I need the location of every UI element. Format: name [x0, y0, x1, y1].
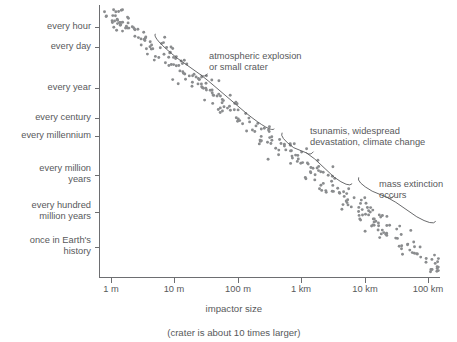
data-point	[120, 9, 123, 12]
data-point	[316, 167, 319, 170]
data-point	[320, 189, 323, 192]
data-point	[425, 261, 428, 264]
data-point	[369, 211, 372, 214]
data-point	[304, 176, 307, 179]
data-point	[245, 130, 248, 133]
data-point	[121, 30, 124, 33]
data-point	[342, 190, 345, 193]
data-point	[154, 55, 157, 58]
data-point	[385, 224, 388, 227]
data-point	[289, 162, 292, 165]
data-point	[309, 170, 312, 173]
annotation-tsunamis-devastation: tsunamis, widespread devastation, climat…	[310, 126, 425, 148]
data-point	[429, 270, 432, 273]
data-point	[400, 244, 403, 247]
data-point	[366, 206, 369, 209]
data-point	[268, 125, 271, 128]
data-point	[191, 81, 194, 84]
data-point	[241, 122, 244, 125]
data-point	[419, 246, 422, 249]
x-axis-title-sub: (crater is about 10 times larger)	[167, 327, 300, 338]
data-point	[377, 229, 380, 232]
y-tick-label-7: once in Earth's history	[0, 235, 91, 256]
data-point	[377, 221, 380, 224]
data-point	[105, 15, 108, 18]
data-point	[136, 28, 139, 31]
data-point	[202, 87, 205, 90]
data-point	[411, 251, 414, 254]
data-point	[164, 61, 167, 64]
data-point	[284, 148, 287, 151]
data-point	[149, 40, 152, 43]
data-point	[178, 69, 181, 72]
data-point	[289, 149, 292, 152]
data-point	[415, 252, 418, 255]
data-point	[406, 243, 409, 246]
data-point	[269, 142, 272, 145]
data-point	[363, 196, 366, 199]
data-point	[360, 199, 363, 202]
data-point	[437, 266, 440, 269]
data-point	[259, 139, 262, 142]
x-axis-title-main: impactor size	[206, 303, 263, 314]
data-point	[277, 153, 280, 156]
data-point	[280, 142, 283, 145]
data-point	[378, 236, 381, 239]
data-point	[398, 225, 401, 228]
data-point	[388, 224, 391, 227]
data-point	[371, 209, 374, 212]
data-point	[268, 136, 271, 139]
data-point	[400, 247, 403, 250]
data-point	[112, 8, 115, 11]
data-point	[266, 141, 269, 144]
data-point	[412, 241, 415, 244]
data-point	[307, 163, 310, 166]
x-axis-title: impactor size (crater is about 10 times …	[0, 291, 457, 342]
data-point	[127, 27, 130, 30]
data-point	[237, 108, 240, 111]
data-point	[336, 187, 339, 190]
data-point	[255, 124, 258, 127]
data-point	[167, 64, 170, 67]
data-point	[353, 196, 356, 199]
data-point	[182, 72, 185, 75]
data-point	[400, 233, 403, 236]
data-point	[229, 109, 232, 112]
data-point	[223, 105, 226, 108]
data-point	[159, 46, 162, 49]
data-point	[119, 24, 122, 27]
data-point	[197, 77, 200, 80]
data-point	[149, 45, 152, 48]
data-point	[248, 120, 251, 123]
data-point	[233, 108, 236, 111]
data-point	[140, 37, 143, 40]
data-point	[373, 224, 376, 227]
data-point	[359, 202, 362, 205]
data-point	[167, 56, 170, 59]
data-point	[370, 225, 373, 228]
data-point	[251, 129, 254, 132]
data-point	[153, 59, 156, 62]
data-point	[322, 182, 325, 185]
data-point	[347, 187, 350, 190]
data-point	[203, 99, 206, 102]
data-point	[114, 14, 117, 17]
data-point	[345, 200, 348, 203]
data-point	[175, 64, 178, 67]
data-point	[115, 29, 118, 32]
data-point	[200, 83, 203, 86]
data-point	[163, 36, 166, 39]
data-point	[325, 191, 328, 194]
data-point	[434, 262, 437, 265]
data-point	[111, 14, 114, 17]
data-point	[142, 31, 145, 34]
data-point	[301, 161, 304, 164]
data-point	[385, 234, 388, 237]
data-point	[121, 21, 124, 24]
data-point	[163, 53, 166, 56]
data-point	[114, 10, 117, 13]
data-point	[103, 10, 106, 13]
data-point	[116, 19, 119, 22]
data-point	[222, 99, 225, 102]
data-point	[229, 94, 232, 97]
